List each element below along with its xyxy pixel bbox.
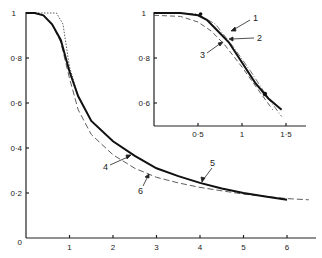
inset-x-tick-label: 0·5 [192, 130, 204, 139]
inset-x-tick-labels: 0·5 1 1·5 [192, 130, 292, 139]
y-tick-label: 0·2 [10, 189, 22, 198]
inset-y-tick-label: 0·8 [138, 54, 150, 63]
main-y-tick-labels: 0 0·2 0·4 0·6 0·8 1 [10, 9, 22, 247]
inset-marker [199, 12, 203, 16]
y-tick-label: 1 [12, 9, 17, 18]
callout-label-5: 5 [210, 158, 215, 168]
y-tick-label: 0·8 [10, 54, 22, 63]
y-tick-label: 0·4 [10, 144, 22, 153]
x-tick-label: 2 [111, 243, 116, 252]
x-tick-label: 4 [198, 243, 203, 252]
x-tick-label: 1 [67, 243, 72, 252]
y-tick-label: 0 [18, 238, 23, 247]
inset-callout-label-3: 3 [200, 50, 205, 60]
callout-label-4: 4 [103, 162, 108, 172]
x-tick-label: 5 [241, 243, 246, 252]
inset-callout-label-2: 2 [257, 33, 262, 43]
x-tick-label: 3 [154, 243, 159, 252]
inset-y-tick-label: 0·6 [138, 99, 150, 108]
inset-y-tick-labels: 0·6 0·8 1 [138, 9, 150, 108]
main-x-tick-labels: 1 2 3 4 5 6 [67, 243, 290, 252]
callout-label-6: 6 [138, 186, 143, 196]
chart-canvas: 1 2 3 4 5 6 0 0·2 0·4 0·6 0·8 1 4 5 6 [0, 0, 322, 258]
inset-x-tick-label: 1·5 [280, 130, 292, 139]
x-tick-label: 6 [285, 243, 290, 252]
y-tick-label: 0·6 [10, 99, 22, 108]
inset-y-tick-label: 1 [142, 9, 147, 18]
inset-x-tick-label: 1 [240, 130, 245, 139]
inset-background [154, 8, 314, 126]
inset-marker [263, 92, 267, 96]
inset-callout-label-1: 1 [253, 13, 258, 23]
